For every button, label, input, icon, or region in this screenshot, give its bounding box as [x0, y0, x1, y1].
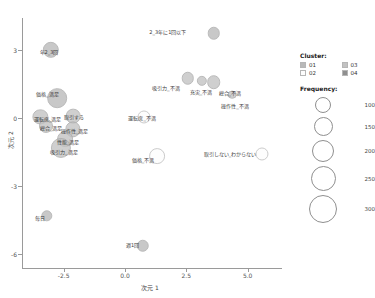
cluster-legend-label: 01 [309, 62, 316, 68]
frequency-size-circle [314, 117, 333, 136]
frequency-legend-label: 200 [365, 148, 375, 154]
cluster-swatch [300, 70, 306, 76]
y-tick-label: -3 [11, 183, 17, 190]
frequency-legend-label: 250 [365, 176, 375, 182]
x-axis-label: 次元 1 [141, 283, 159, 292]
cluster-legend-entry[interactable]: 03 [342, 62, 375, 68]
data-point-label: 運転席_満足 [34, 116, 62, 121]
frequency-legend-items: 100150200250300 [300, 95, 375, 225]
frequency-legend-label: 300 [365, 206, 375, 212]
y-tick-mark [18, 50, 22, 51]
x-tick-label: -2.5 [58, 272, 70, 279]
data-point-label: 価格_不満 [132, 157, 155, 162]
data-point-label: 2_3年に1回以下 [149, 30, 186, 35]
data-point-bubble[interactable] [182, 72, 195, 85]
data-point-label: 週1回 [126, 242, 139, 247]
y-tick-label: -6 [11, 251, 17, 258]
data-point-label: 取引しない_わからない [204, 152, 257, 157]
y-tick-mark [18, 118, 22, 119]
data-point-bubble[interactable] [255, 148, 268, 161]
y-axis-line [22, 18, 23, 268]
data-point-label: 操作性_不満 [221, 103, 249, 108]
x-axis-line [22, 268, 282, 269]
cluster-legend-entry[interactable]: 01 [300, 62, 334, 68]
cluster-legend-title: Cluster: [300, 52, 375, 59]
data-point-label: 吸引力_不満 [152, 86, 180, 91]
y-tick-label: 3 [13, 46, 17, 53]
cluster-swatch [300, 62, 306, 68]
chart-root: 30-3-6 -2.50.02.55.0 2_3年に1回以下年2_3回吸引力_不… [0, 0, 375, 298]
data-point-label: 吸引力_満足 [50, 149, 78, 154]
data-point-label: 総合_不満 [219, 91, 242, 96]
chart-legend: Cluster: 01030204 Frequency: 10015020025… [300, 52, 375, 225]
frequency-legend-entry: 250 [300, 164, 375, 193]
frequency-size-circle [315, 97, 331, 113]
y-tick-mark [18, 254, 22, 255]
cluster-swatch [342, 62, 348, 68]
frequency-size-circle [312, 140, 334, 162]
frequency-legend-title: Frequency: [300, 85, 375, 92]
scatter-plot-area: 30-3-6 -2.50.02.55.0 2_3年に1回以下年2_3回吸引力_不… [0, 0, 298, 298]
x-tick-label: 5.0 [243, 272, 253, 279]
data-point-bubble[interactable] [208, 27, 221, 40]
frequency-legend-entry: 100 [300, 95, 375, 115]
data-point-label: 総合_満足 [40, 125, 63, 130]
data-point-label: 毎日 [35, 215, 45, 220]
cluster-legend-entry[interactable]: 02 [300, 70, 334, 76]
data-point-label: 操作性_満足 [61, 129, 89, 134]
data-point-label: 運転席_不満 [128, 116, 156, 121]
frequency-legend-entry: 200 [300, 138, 375, 164]
frequency-legend-entry: 150 [300, 115, 375, 138]
x-tick-label: 0.0 [120, 272, 130, 279]
frequency-legend-entry: 300 [300, 193, 375, 225]
cluster-legend-label: 02 [309, 70, 316, 76]
data-point-label: 価格_満足 [36, 92, 59, 97]
data-point-label: 性能_満足 [57, 140, 80, 145]
y-tick-label: 0 [13, 115, 17, 122]
frequency-size-circle [311, 166, 336, 191]
x-tick-label: 2.5 [182, 272, 192, 279]
cluster-legend-label: 03 [351, 62, 358, 68]
data-point-label: 年2_3回 [40, 49, 59, 54]
y-tick-mark [18, 186, 22, 187]
data-point-bubble[interactable] [207, 75, 221, 89]
frequency-legend-label: 150 [365, 124, 375, 130]
cluster-legend-entry[interactable]: 04 [342, 70, 375, 76]
data-point-bubble[interactable] [197, 76, 207, 86]
y-axis-label: 次元 2 [6, 131, 15, 149]
data-point-label: 充実_不満 [190, 90, 213, 95]
cluster-swatch [342, 70, 348, 76]
frequency-size-circle [309, 195, 337, 223]
data-point-label: 取引する [64, 115, 84, 120]
frequency-legend-label: 100 [365, 102, 375, 108]
cluster-legend-items: 01030204 [300, 62, 375, 76]
cluster-legend-label: 04 [351, 70, 358, 76]
